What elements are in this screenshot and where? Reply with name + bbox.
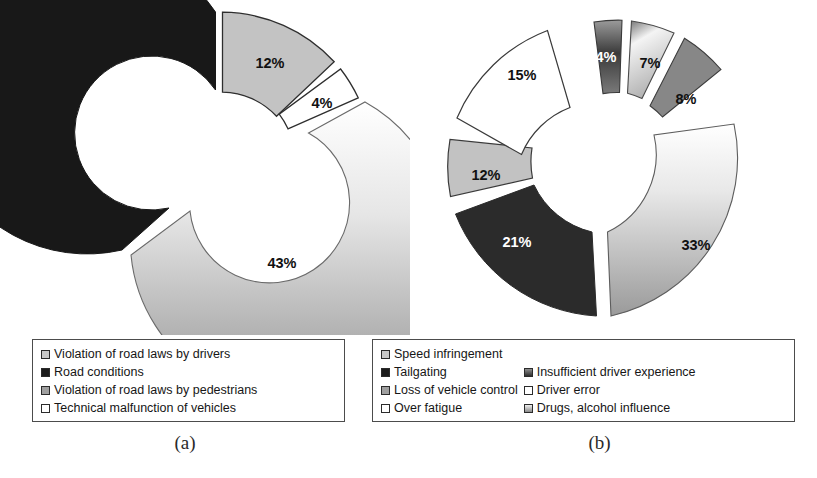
legend-label: Technical malfunction of vehicles [54,402,236,415]
legend-swatch-icon [524,404,533,413]
legend-item-drugs-alcohol[interactable]: Drugs, alcohol influence [524,399,696,417]
figure-two-doughnut-charts: 12% 4% 43% 41% Violation of road laws by… [0,0,817,478]
legend-swatch-icon [41,350,50,359]
legend-item-road-conditions[interactable]: Road conditions [41,363,257,381]
slice-b-label-21: 21% [502,234,531,250]
doughnut-chart-a: 12% 4% 43% 41% [0,0,410,335]
slice-b-label-7: 7% [640,55,661,71]
legend-b-column-1: Speed infringement Tailgating Loss of ve… [381,345,518,417]
legend-b-columns: Speed infringement Tailgating Loss of ve… [381,345,794,417]
legend-label: Speed infringement [394,348,502,361]
legend-label: Violation of road laws by drivers [54,348,230,361]
slice-b-label-15: 15% [507,67,536,83]
legend-b: Speed infringement Tailgating Loss of ve… [372,339,795,422]
legend-label: Insufficient driver experience [537,366,696,379]
legend-a: Violation of road laws by drivers Road c… [32,339,345,422]
legend-label: Drugs, alcohol influence [537,402,670,415]
caption-a: (a) [0,432,390,454]
legend-b-column-2: Insufficient driver experience Driver er… [518,345,696,417]
legend-label: Tailgating [394,366,447,379]
doughnut-chart-b: 4% 7% 8% 33% 21% 12% 15% [410,0,817,335]
panel-a: 12% 4% 43% 41% Violation of road laws by… [0,0,410,478]
panel-b: 4% 7% 8% 33% 21% 12% 15% [410,0,817,478]
legend-a-columns: Violation of road laws by drivers Road c… [41,345,344,417]
slice-b-speed-infringement [608,124,738,316]
legend-item-loss-of-control[interactable]: Loss of vehicle control [381,381,518,399]
legend-item-violation-drivers[interactable]: Violation of road laws by drivers [41,345,257,363]
legend-item-violation-pedestrians[interactable]: Violation of road laws by pedestrians [41,381,257,399]
doughnut-a-svg: 12% 4% 43% 41% [0,0,410,335]
legend-label: Driver error [537,384,600,397]
legend-swatch-icon [41,386,50,395]
slice-a-label-12: 12% [255,55,284,71]
caption-b: (b) [396,432,803,454]
slice-b-tailgating [456,185,597,316]
slice-a-label-43: 43% [267,255,296,271]
slice-b-label-8: 8% [676,91,697,107]
slice-b-label-12: 12% [471,167,500,183]
legend-swatch-icon [381,404,390,413]
legend-label: Violation of road laws by pedestrians [54,384,257,397]
legend-a-column-1: Violation of road laws by drivers Road c… [41,345,257,417]
legend-item-driver-error[interactable]: Driver error [524,381,696,399]
slice-b-label-4: 4% [596,49,617,65]
slice-a-label-4: 4% [312,95,333,111]
legend-item-speed-infringement[interactable]: Speed infringement [381,345,518,363]
legend-item-tailgating[interactable]: Tailgating [381,363,518,381]
legend-swatch-icon [41,368,50,377]
slice-b-label-33: 33% [681,237,710,253]
legend-swatch-icon [41,404,50,413]
legend-swatch-icon [524,386,533,395]
doughnut-b-svg: 4% 7% 8% 33% 21% 12% 15% [410,0,817,335]
legend-label: Over fatigue [394,402,462,415]
legend-item-over-fatigue[interactable]: Over fatigue [381,399,518,417]
legend-item-technical-malfunction[interactable]: Technical malfunction of vehicles [41,399,257,417]
slice-b-over-fatigue [457,31,570,155]
legend-swatch-icon [381,368,390,377]
legend-item-insufficient-experience[interactable]: Insufficient driver experience [524,363,696,381]
slice-a-violation-pedestrians [131,102,410,335]
legend-label: Road conditions [54,366,144,379]
legend-swatch-icon [381,386,390,395]
legend-label: Loss of vehicle control [394,384,518,397]
legend-swatch-icon [381,350,390,359]
legend-swatch-icon [524,368,533,377]
slice-a-label-41: 41% [93,134,122,150]
